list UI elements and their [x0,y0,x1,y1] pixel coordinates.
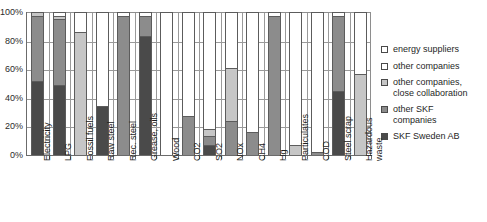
legend-item: other companies, close collaboration [381,77,487,98]
bar-segment [332,16,345,90]
legend-item: other companies [381,61,487,72]
legend-item: other SKF companies [381,104,487,125]
bar-segment [139,16,152,36]
x-axis-label: Hazardous waste [364,103,384,161]
x-axis-label: LPG [63,103,73,161]
x-axis-label: Electricity [42,103,52,161]
bar-segment [96,12,109,106]
bar-segment [31,16,44,80]
x-axis-label: Grease, oils [149,103,159,161]
bar-segment [182,12,195,116]
x-axis-label: Hg [278,103,288,161]
legend-label: SKF Sweden AB [393,131,460,142]
y-tick-label: 60% [5,65,26,74]
bar-segment [74,12,87,32]
legend-swatch-icon [381,79,388,86]
legend-label: other companies, close collaboration [393,77,468,98]
stacked-bar-chart: 0%20%40%60%80%100% energy suppliersother… [0,0,487,222]
x-axis-label: NOx [235,103,245,161]
y-tick-label: 20% [5,122,26,131]
x-axis-label: Raw steel [106,103,116,161]
x-axis-label: COD [321,103,331,161]
legend-label: energy suppliers [393,44,459,55]
y-axis: 0%20%40%60%80%100% [0,12,26,155]
legend-label: other companies [393,61,460,72]
legend-swatch-icon [381,63,388,70]
legend-swatch-icon [381,46,388,53]
x-axis-label: Fossil fuels [85,103,95,161]
y-tick-label: 0% [10,151,26,160]
bar-segment [225,12,238,68]
bar-segment [354,12,367,73]
x-axis-label: SO2 [214,103,224,161]
y-tick-label: 80% [5,36,26,45]
x-axis-label: CH4 [257,103,267,161]
legend-label: other SKF companies [393,104,437,125]
x-axis-label: Wood [171,103,181,161]
x-axis-label: Particulates [300,103,310,161]
legend-item: energy suppliers [381,44,487,55]
x-axis-label: CO2 [192,103,202,161]
bar-segment [53,19,66,85]
x-axis-label: Steel scrap [343,103,353,161]
legend-item: SKF Sweden AB [381,131,487,142]
x-axis-label: Rec. steel [128,103,138,161]
y-tick-label: 100% [0,8,26,17]
chart-legend: energy suppliersother companiesother com… [381,44,487,148]
y-tick-label: 40% [5,93,26,102]
